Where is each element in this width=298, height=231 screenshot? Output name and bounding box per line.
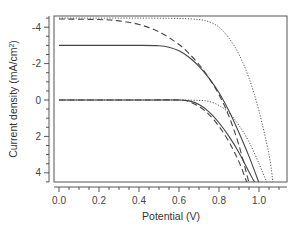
y-axis-label-close: ) — [7, 40, 19, 44]
curve-solid-illuminated — [59, 45, 259, 182]
plot-frame — [54, 16, 287, 182]
curve-dashed-illuminated — [59, 19, 249, 183]
y-tick-label: 4 — [35, 167, 41, 178]
plot-border — [54, 16, 287, 182]
y-tick-label: -4 — [32, 22, 41, 33]
x-tick-label: 0.8 — [212, 195, 226, 206]
x-tick-label: 0.0 — [52, 195, 66, 206]
curve-solid-dark — [59, 100, 255, 183]
y-tick-label: 2 — [35, 131, 41, 142]
x-tick-label: 0.4 — [132, 195, 146, 206]
x-tick-label: 0.2 — [92, 195, 106, 206]
y-axis-ticks: -4-2024 — [32, 16, 49, 182]
y-axis-label: Current density (mA/cm2) — [7, 40, 19, 158]
x-tick-label: 0.6 — [172, 195, 186, 206]
curve-dotted-dark — [59, 100, 267, 183]
y-axis-label-main: Current density (mA/cm — [7, 47, 19, 158]
y-tick-label: 0 — [35, 95, 41, 106]
x-axis-ticks: 0.00.20.40.60.81.0 — [52, 187, 287, 206]
x-axis-label: Potential (V) — [142, 210, 200, 222]
y-tick-label: -2 — [32, 58, 41, 69]
data-curves — [59, 18, 273, 183]
jv-curve-chart: 0.00.20.40.60.81.0 -4-2024 Potential (V)… — [0, 0, 298, 231]
curve-dashed-dark — [59, 100, 247, 183]
x-tick-label: 1.0 — [252, 195, 266, 206]
